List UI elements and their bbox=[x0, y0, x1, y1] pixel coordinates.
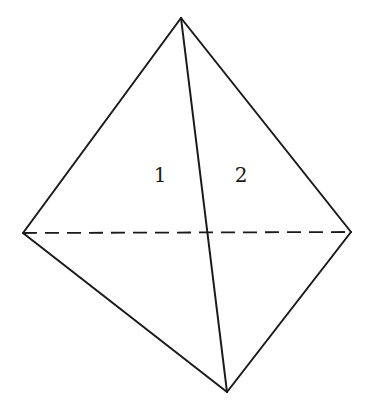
face-label-1: 1 bbox=[154, 163, 167, 187]
edge-left-right-hidden bbox=[23, 232, 351, 233]
tetrahedron-diagram: 1 2 bbox=[0, 0, 371, 415]
edge-right-bottom bbox=[227, 232, 351, 392]
edge-apex-bottom bbox=[181, 18, 227, 392]
edge-apex-left bbox=[23, 18, 181, 233]
face-label-2: 2 bbox=[235, 163, 248, 187]
edge-apex-right bbox=[181, 18, 351, 232]
edge-left-bottom bbox=[23, 233, 227, 392]
